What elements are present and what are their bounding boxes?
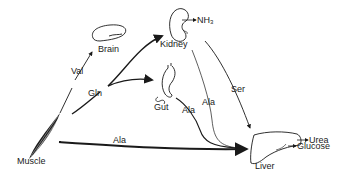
diagram-graphics [0,0,344,174]
edge-label-ala-muscle: Ala [113,136,126,145]
node-label-kidney: Kidney [160,40,188,49]
edge-label-ser: Ser [231,85,245,94]
gut-icon [156,63,175,104]
node-label-muscle: Muscle [17,157,46,166]
output-label-glucose: Glucose [297,142,330,151]
edge-label-ala-kidney: Ala [202,98,215,107]
nh3-text: NH [197,15,210,25]
edge-label-val: Val [71,67,83,76]
node-label-gut: Gut [154,103,169,112]
brain-icon [92,25,125,41]
muscle-icon [29,113,60,159]
edge-label-gln: Gln [88,89,102,98]
kidney-icon [170,9,189,42]
node-label-liver: Liver [255,162,275,171]
amino-acid-flow-diagram: Muscle Brain Kidney Gut Liver Val Gln Al… [0,0,344,174]
liver-icon [251,132,301,164]
node-label-brain: Brain [98,45,119,54]
edge-label-ala-gut: Ala [182,106,195,115]
nh3-subscript: 3 [210,19,213,25]
output-label-nh3: NH3 [197,16,213,25]
arrow-muscle-brain [60,52,92,113]
